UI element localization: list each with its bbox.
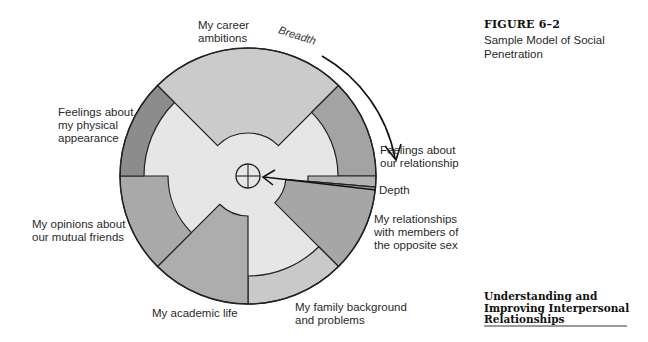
label-career-ambitions: My career ambitions (198, 19, 249, 45)
label-academic-life: My academic life (152, 307, 238, 320)
figure-caption: Sample Model of Social Penetration (484, 33, 634, 61)
breadth-label: Breadth (277, 23, 317, 46)
book-title: Understanding and Improving Interpersona… (484, 291, 644, 326)
label-our-relationship: Feelings about our relationship (380, 144, 459, 170)
figure-number: FIGURE 6–2 (484, 18, 560, 31)
label-mutual-friends: My opinions about our mutual friends (32, 218, 125, 244)
label-family-background: My family background and problems (295, 301, 407, 327)
label-opposite-sex: My relationships with members of the opp… (374, 213, 458, 252)
book-title-rule (484, 325, 627, 327)
label-physical-appearance: Feelings about my physical appearance (58, 106, 133, 145)
label-depth: Depth (379, 184, 410, 197)
